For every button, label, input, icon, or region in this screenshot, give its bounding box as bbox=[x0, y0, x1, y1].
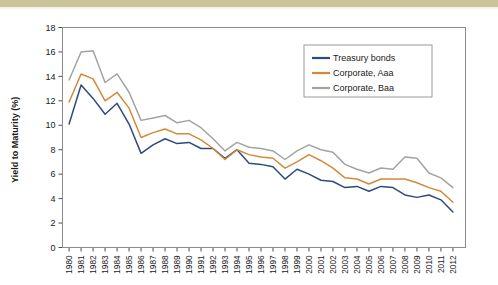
x-tick-label: 1993 bbox=[221, 255, 230, 274]
x-tick-label: 2006 bbox=[377, 255, 386, 274]
x-tick-label: 1988 bbox=[161, 255, 170, 274]
legend-label-3: Corporate, Baa bbox=[333, 83, 394, 93]
chart-plot-wrapper: Yield to Maturity (%) 024681012141618 19… bbox=[0, 0, 498, 285]
y-tick-label: 14 bbox=[45, 72, 55, 82]
y-axis-title: Yield to Maturity (%) bbox=[10, 97, 20, 183]
x-tick-label: 2011 bbox=[437, 255, 446, 273]
y-tick-label: 10 bbox=[45, 120, 55, 130]
x-tick-label: 2000 bbox=[305, 255, 314, 274]
y-tick-label: 4 bbox=[50, 194, 55, 204]
y-axis-ticks: 024681012141618 bbox=[45, 23, 62, 253]
x-axis-ticks: 1980198119821983198419851986198719881989… bbox=[65, 248, 458, 274]
y-axis-title-text: Yield to Maturity (%) bbox=[10, 97, 20, 183]
x-tick-label: 1997 bbox=[269, 255, 278, 274]
x-tick-label: 1999 bbox=[293, 255, 302, 274]
y-tick-label: 2 bbox=[50, 218, 55, 228]
y-tick-label: 16 bbox=[45, 47, 55, 57]
x-tick-label: 2012 bbox=[449, 255, 458, 274]
y-tick-label: 12 bbox=[45, 96, 55, 106]
yield-to-maturity-line-chart: Yield to Maturity (%) 024681012141618 19… bbox=[0, 0, 498, 285]
x-tick-label: 1996 bbox=[257, 255, 266, 274]
y-tick-label: 0 bbox=[50, 243, 55, 253]
x-tick-label: 1994 bbox=[233, 255, 242, 274]
y-tick-label: 8 bbox=[50, 145, 55, 155]
x-tick-label: 1989 bbox=[173, 255, 182, 274]
x-tick-label: 1985 bbox=[125, 255, 134, 274]
x-tick-label: 1990 bbox=[185, 255, 194, 274]
x-tick-label: 1983 bbox=[101, 255, 110, 274]
x-tick-label: 1991 bbox=[197, 255, 206, 274]
figure-container: Yield to Maturity (%) 024681012141618 19… bbox=[0, 0, 498, 285]
x-tick-label: 2007 bbox=[389, 255, 398, 274]
y-tick-label: 18 bbox=[45, 23, 55, 33]
x-tick-label: 1998 bbox=[281, 255, 290, 274]
x-tick-label: 1982 bbox=[89, 255, 98, 274]
x-tick-label: 2009 bbox=[413, 255, 422, 274]
x-tick-label: 1992 bbox=[209, 255, 218, 274]
legend-label-1: Treasury bonds bbox=[333, 53, 396, 63]
x-tick-label: 1987 bbox=[149, 255, 158, 274]
x-tick-label: 1981 bbox=[77, 255, 86, 274]
x-tick-label: 1984 bbox=[113, 255, 122, 274]
x-tick-label: 1986 bbox=[137, 255, 146, 274]
x-tick-label: 1980 bbox=[65, 255, 74, 274]
x-tick-label: 2003 bbox=[341, 255, 350, 274]
x-tick-label: 1995 bbox=[245, 255, 254, 274]
x-tick-label: 2010 bbox=[425, 255, 434, 274]
y-tick-label: 6 bbox=[50, 169, 55, 179]
x-tick-label: 2008 bbox=[401, 255, 410, 274]
x-tick-label: 2004 bbox=[353, 255, 362, 274]
x-tick-label: 2001 bbox=[317, 255, 326, 274]
x-tick-label: 2005 bbox=[365, 255, 374, 274]
legend-label-2: Corporate, Aaa bbox=[333, 68, 394, 78]
chart-legend: Treasury bondsCorporate, AaaCorporate, B… bbox=[304, 45, 432, 97]
x-tick-label: 2002 bbox=[329, 255, 338, 274]
